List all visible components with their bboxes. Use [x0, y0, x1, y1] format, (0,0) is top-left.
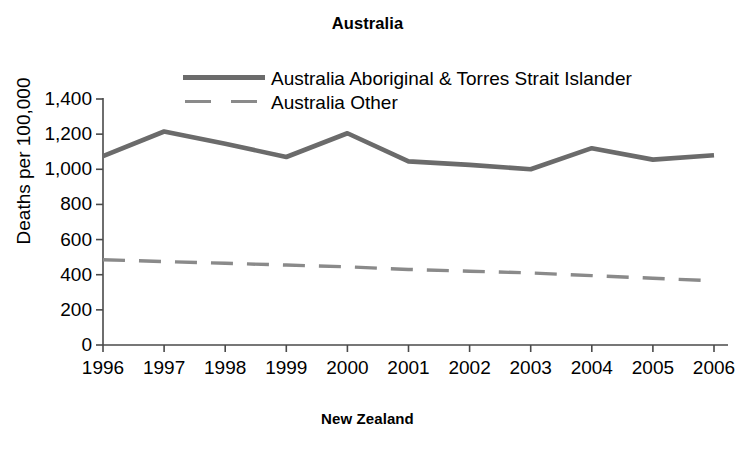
plot-area	[0, 0, 735, 460]
series-line-1	[103, 260, 714, 281]
chart-figure: Australia Deaths per 100,000 1,4001,2001…	[0, 0, 735, 460]
bottom-caption: New Zealand	[0, 410, 735, 427]
series-line-0	[103, 132, 714, 170]
data-series	[103, 132, 714, 281]
